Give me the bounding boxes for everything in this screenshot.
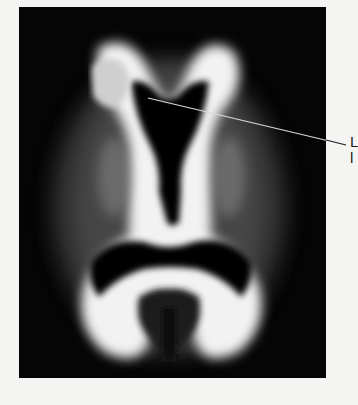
brain-white-matter-drawing — [19, 7, 326, 378]
annotation-label-line2: l — [350, 150, 353, 165]
brain-scan-image — [19, 7, 326, 378]
annotation-label-line1: L — [350, 134, 358, 149]
